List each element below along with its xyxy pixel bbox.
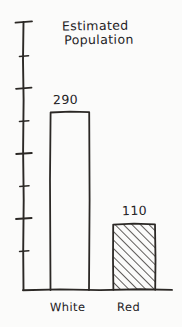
bar-chart: Estimated Population 290 110 White Red bbox=[0, 0, 182, 327]
y-axis-tick-6 bbox=[16, 218, 32, 219]
y-axis-tick-3 bbox=[20, 121, 29, 122]
y-axis-cap-tick bbox=[16, 21, 33, 22]
chart-title-line-2: Population bbox=[62, 33, 134, 48]
bar-red-fill bbox=[113, 224, 155, 290]
y-axis-line bbox=[23, 22, 24, 290]
y-axis-tick-1 bbox=[20, 56, 29, 57]
x-axis-label-white: White bbox=[50, 300, 86, 314]
chart-title: Estimated Population bbox=[62, 19, 134, 48]
bar-value-label-red: 110 bbox=[122, 203, 147, 219]
bar-white bbox=[50, 112, 90, 290]
y-axis-tick-5 bbox=[20, 186, 29, 187]
x-axis-label-red: Red bbox=[117, 300, 140, 314]
y-axis-tick-2 bbox=[16, 88, 32, 89]
y-axis-tick-7 bbox=[20, 251, 29, 252]
y-axis-tick-4 bbox=[16, 153, 32, 154]
chart-sketch-canvas bbox=[0, 0, 182, 327]
bar-value-label-white: 290 bbox=[53, 92, 78, 108]
